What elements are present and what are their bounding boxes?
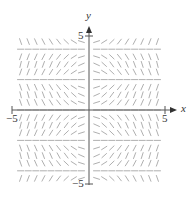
x-min-label: −5 bbox=[6, 112, 18, 124]
y-axis-label: y bbox=[86, 9, 91, 21]
x-max-label: 5 bbox=[162, 112, 168, 124]
slope-field-plot bbox=[0, 0, 195, 198]
x-axis-arrow-icon bbox=[170, 107, 177, 113]
y-max-label: 5 bbox=[78, 29, 84, 41]
y-min-label: −5 bbox=[72, 177, 84, 189]
x-axis-label: x bbox=[181, 102, 186, 114]
y-axis-arrow-icon bbox=[86, 26, 92, 33]
